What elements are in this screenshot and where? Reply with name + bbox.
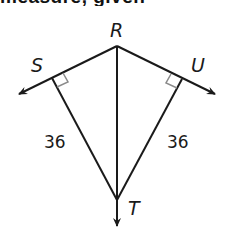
length-label-st: 36 — [44, 132, 66, 152]
label-u: U — [191, 54, 205, 76]
label-t: T — [128, 197, 141, 219]
length-label-ut: 36 — [167, 132, 189, 152]
right-angle-mark-u — [166, 74, 177, 88]
label-s: S — [31, 54, 43, 76]
geometry-diagram: R S U T 36 36 — [0, 0, 226, 227]
label-r: R — [110, 19, 123, 41]
